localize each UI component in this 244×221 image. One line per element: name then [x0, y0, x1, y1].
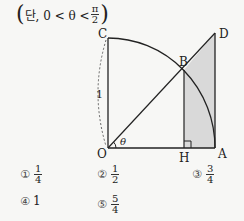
choice-5[interactable]: ⑤ 54	[97, 194, 120, 215]
label-D: D	[219, 27, 229, 41]
angle-label: θ	[120, 136, 126, 147]
label-O: O	[97, 147, 107, 161]
choice-2[interactable]: ② 12	[97, 164, 120, 185]
choice-3[interactable]: ③ 34	[192, 164, 215, 185]
angle-arc	[114, 142, 117, 148]
radius-label: 1	[96, 88, 103, 101]
label-C: C	[98, 27, 107, 41]
label-A: A	[217, 147, 227, 161]
choice-1[interactable]: ① 14	[20, 164, 43, 185]
answer-choices: ① 14 ② 12 ③ 34 ④ 1 ⑤ 54	[0, 162, 244, 221]
label-B: B	[179, 55, 188, 69]
choice-4[interactable]: ④ 1	[20, 194, 41, 208]
